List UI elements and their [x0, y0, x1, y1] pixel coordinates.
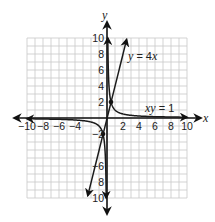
- equation-label-xy-1: xy = 1: [144, 101, 174, 115]
- x-tick-label: −4: [69, 120, 81, 132]
- x-tick-label: 6: [152, 120, 158, 132]
- y-tick-label: 8: [98, 48, 104, 60]
- equation-label-y-4x: y = 4x: [127, 49, 158, 63]
- x-tick-label: −6: [53, 120, 65, 132]
- y-tick-label: −6: [92, 160, 104, 172]
- x-tick-label: −10: [18, 120, 36, 132]
- x-axis-label: x: [202, 111, 209, 125]
- intersection-point: [109, 100, 114, 105]
- x-tick-label: −8: [37, 120, 49, 132]
- y-tick-label: 2: [98, 96, 104, 108]
- y-tick-label: 6: [98, 64, 104, 76]
- y-tick-label: 8: [98, 176, 104, 188]
- x-tick-label: 10: [181, 120, 193, 132]
- y-tick-label: 4: [98, 80, 104, 92]
- y-tick-label: 10: [92, 192, 104, 204]
- y-tick-label: −2: [92, 128, 104, 140]
- y-tick-label: 10: [92, 32, 104, 44]
- y-axis-label: y: [101, 8, 108, 22]
- x-tick-label: 8: [168, 120, 174, 132]
- x-tick-label: 2: [120, 120, 126, 132]
- x-tick-label: 4: [136, 120, 142, 132]
- graph: −10−8−6−4246810108642−2−6810 y x y = 4x …: [0, 0, 215, 222]
